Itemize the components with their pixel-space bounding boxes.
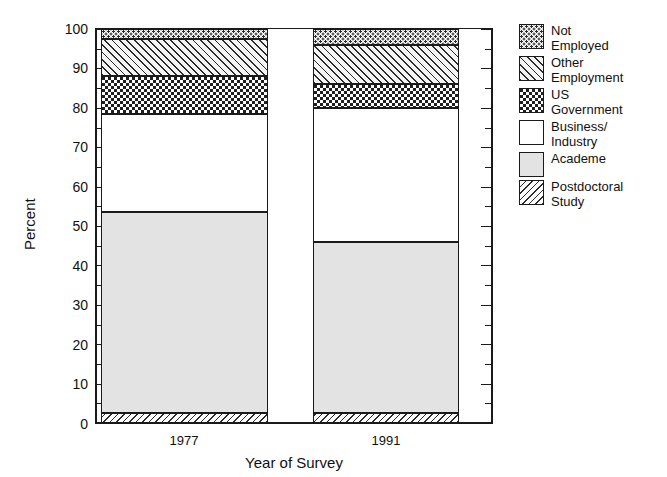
y-tick-right-80 [481, 108, 491, 109]
legend-label-business-industry: Business/ Industry [551, 120, 607, 149]
legend-swatch-not-employed-icon [519, 24, 544, 49]
legend-label-line2: Study [551, 195, 623, 210]
y-tick-label-80: 80 [44, 101, 88, 115]
y-tick-right-5 [485, 403, 491, 404]
legend-label-line2: Industry [551, 135, 607, 150]
y-tick-right-70 [481, 147, 491, 148]
bar-1991-segment-us-government [313, 84, 459, 108]
legend-label-line1: Postdoctoral [551, 180, 623, 195]
bar-1991-segment-postdoctoral-study [313, 413, 459, 423]
x-axis-title: Year of Survey [194, 455, 394, 470]
y-axis-spine-right [491, 29, 493, 424]
y-tick-right-50 [481, 226, 491, 227]
y-tick-right-100 [481, 29, 491, 30]
legend-label-postdoctoral-study: Postdoctoral Study [551, 180, 623, 209]
bar-1977-segment-postdoctoral-study [101, 413, 268, 423]
y-tick-label-20: 20 [44, 338, 88, 352]
y-tick-right-20 [481, 344, 491, 345]
y-tick-right-40 [481, 265, 491, 266]
y-tick-label-100: 100 [44, 22, 88, 36]
legend-label-line2: Government [551, 103, 623, 118]
bar-1991-segment-other-employment [313, 45, 459, 84]
legend-label-line1: US [551, 88, 623, 103]
legend-swatch-academe-icon [519, 152, 544, 177]
legend-swatch-other-employment-icon [519, 56, 544, 81]
legend-label-not-employed: Not Employed [551, 24, 609, 53]
bar-1977-segment-business-industry [101, 114, 268, 213]
bar-1977-segment-other-employment [101, 39, 268, 77]
legend-item-not-employed: Not Employed [519, 24, 659, 53]
bar-1977-segment-not-employed [101, 29, 268, 39]
y-tick-right-95 [485, 49, 491, 50]
legend-label-line1: Academe [551, 152, 606, 167]
bar-1991-segment-academe [313, 242, 459, 414]
legend-swatch-us-government-icon [519, 88, 544, 113]
legend-label-line1: Other [551, 56, 623, 71]
legend-item-other-employment: Other Employment [519, 56, 659, 85]
bar-1991-segment-business-industry [313, 108, 459, 242]
legend-label-line1: Business/ [551, 120, 607, 135]
legend-label-us-government: US Government [551, 88, 623, 117]
y-tick-label-30: 30 [44, 298, 88, 312]
y-tick-right-10 [481, 384, 491, 385]
x-tick-label-1991: 1991 [326, 434, 446, 447]
legend-label-academe: Academe [551, 152, 606, 167]
y-tick-label-50: 50 [44, 219, 88, 233]
legend-item-postdoctoral-study: Postdoctoral Study [519, 180, 659, 209]
y-tick-right-45 [485, 246, 491, 247]
y-tick-label-70: 70 [44, 140, 88, 154]
legend-swatch-postdoctoral-study-icon [519, 180, 544, 205]
y-tick-right-55 [485, 206, 491, 207]
y-tick-label-40: 40 [44, 259, 88, 273]
legend-item-us-government: US Government [519, 88, 659, 117]
legend-label-other-employment: Other Employment [551, 56, 623, 85]
y-tick-right-65 [485, 167, 491, 168]
legend-swatch-business-industry-icon [519, 120, 544, 145]
legend-label-line1: Not [551, 24, 609, 39]
y-tick-right-25 [485, 325, 491, 326]
y-tick-label-0: 0 [44, 417, 88, 431]
y-tick-right-30 [481, 305, 491, 306]
y-axis-title: Percent [22, 198, 37, 250]
chart-figure: Percent 100 90 80 70 60 50 40 30 20 10 0 [0, 0, 667, 477]
legend-item-academe: Academe [519, 152, 659, 177]
y-tick-label-60: 60 [44, 180, 88, 194]
bar-1991-segment-not-employed [313, 29, 459, 45]
chart-legend: Not Employed Other Employment US Governm… [519, 24, 659, 212]
y-tick-right-90 [481, 68, 491, 69]
y-tick-label-10: 10 [44, 377, 88, 391]
y-tick-right-15 [485, 364, 491, 365]
y-tick-right-60 [481, 187, 491, 188]
legend-label-line2: Employed [551, 39, 609, 54]
y-tick-right-75 [485, 128, 491, 129]
y-tick-right-35 [485, 285, 491, 286]
bar-1977-segment-academe [101, 212, 268, 413]
legend-item-business-industry: Business/ Industry [519, 120, 659, 149]
bar-1977-segment-us-government [101, 76, 268, 114]
y-tick-label-90: 90 [44, 61, 88, 75]
y-tick-right-85 [485, 88, 491, 89]
x-tick-label-1977: 1977 [124, 434, 244, 447]
legend-label-line2: Employment [551, 71, 623, 86]
